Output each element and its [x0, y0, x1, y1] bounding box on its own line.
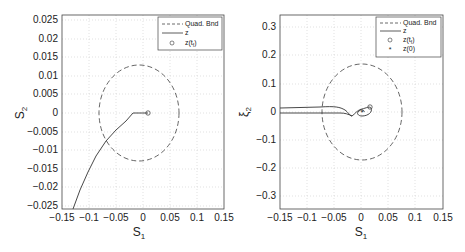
- svg-text:0.015: 0.015: [33, 51, 58, 62]
- svg-text:−0.005: −0.005: [27, 126, 58, 137]
- right-plot: * 0.3 0.2 0.1 0 −0.1 −0.2 −0.3 −0.15 −0.…: [237, 15, 453, 241]
- left-xticks: −0.15 −0.1 −0.05 0 0.05 0.1 0.15: [49, 212, 234, 223]
- left-legend: Quad. Bnd z z(tf): [158, 17, 222, 50]
- svg-text:0.01: 0.01: [39, 70, 59, 81]
- left-xlabel: S1: [133, 225, 146, 241]
- svg-text:z(0): z(0): [403, 45, 415, 53]
- svg-text:−0.15: −0.15: [267, 212, 293, 223]
- figure: 0.025 0.02 0.015 0.01 0.005 0 −0.005 −0.…: [0, 0, 465, 252]
- svg-text:Quad. Bnd: Quad. Bnd: [403, 19, 437, 27]
- svg-text:0.005: 0.005: [33, 88, 58, 99]
- svg-text:0: 0: [358, 212, 364, 223]
- svg-text:−0.3: −0.3: [256, 190, 276, 201]
- svg-text:0.05: 0.05: [378, 212, 398, 223]
- left-trajectory-z: [73, 113, 148, 209]
- svg-text:0: 0: [270, 106, 276, 117]
- svg-text:0.05: 0.05: [160, 212, 180, 223]
- left-plot: 0.025 0.02 0.015 0.01 0.005 0 −0.005 −0.…: [13, 14, 234, 241]
- svg-text:−0.1: −0.1: [297, 212, 317, 223]
- svg-text:z: z: [403, 27, 407, 34]
- svg-text:Quad. Bnd: Quad. Bnd: [185, 20, 219, 28]
- svg-text:−0.05: −0.05: [321, 212, 347, 223]
- svg-text:−0.1: −0.1: [79, 212, 99, 223]
- svg-text:0.1: 0.1: [262, 78, 276, 89]
- right-yticks: 0.3 0.2 0.1 0 −0.1 −0.2 −0.3: [256, 21, 276, 201]
- svg-text:*: *: [389, 46, 392, 53]
- left-yticks: 0.025 0.02 0.015 0.01 0.005 0 −0.005 −0.…: [27, 14, 58, 211]
- svg-text:−0.2: −0.2: [256, 162, 276, 173]
- right-marker-z0: *: [361, 109, 364, 116]
- right-xlabel: S1: [355, 225, 368, 241]
- svg-text:−0.02: −0.02: [33, 181, 59, 192]
- svg-text:0: 0: [52, 107, 58, 118]
- svg-text:−0.015: −0.015: [27, 163, 58, 174]
- svg-text:−0.05: −0.05: [103, 212, 129, 223]
- right-ylabel: ξ2: [237, 107, 253, 117]
- right-trajectory-z: [280, 107, 371, 116]
- right-legend: Quad. Bnd z z(tf) * z(0): [376, 17, 441, 57]
- svg-text:−0.025: −0.025: [27, 200, 58, 211]
- svg-text:0.025: 0.025: [33, 14, 58, 25]
- svg-text:0.2: 0.2: [262, 49, 276, 60]
- svg-text:0.15: 0.15: [214, 212, 234, 223]
- svg-text:0.3: 0.3: [262, 21, 276, 32]
- svg-text:z: z: [185, 29, 189, 36]
- svg-text:−0.15: −0.15: [49, 212, 75, 223]
- left-ylabel: S2: [13, 106, 29, 119]
- svg-text:0: 0: [140, 212, 146, 223]
- svg-text:0.15: 0.15: [433, 212, 453, 223]
- svg-text:0.1: 0.1: [190, 212, 204, 223]
- svg-text:−0.01: −0.01: [33, 144, 59, 155]
- right-xticks: −0.15 −0.1 −0.05 0 0.05 0.1 0.15: [267, 212, 453, 223]
- svg-text:0.1: 0.1: [408, 212, 422, 223]
- svg-text:−0.1: −0.1: [256, 134, 276, 145]
- svg-text:0.02: 0.02: [39, 33, 59, 44]
